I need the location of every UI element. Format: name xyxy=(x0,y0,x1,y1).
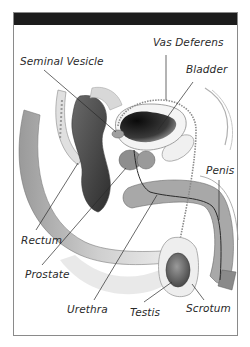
label-prostate: Prostate xyxy=(25,268,69,280)
testis-organ xyxy=(166,253,190,287)
leader-scrotum xyxy=(192,284,204,300)
label-rectum: Rectum xyxy=(21,234,62,246)
label-bladder: Bladder xyxy=(186,63,227,75)
label-seminal-vesicle: Seminal Vesicle xyxy=(20,55,104,67)
label-vas-deferens: Vas Deferens xyxy=(153,36,224,48)
label-urethra: Urethra xyxy=(67,303,108,315)
seminal-vesicle-organ xyxy=(112,130,124,138)
label-testis: Testis xyxy=(130,306,160,318)
label-penis: Penis xyxy=(206,164,234,176)
label-scrotum: Scrotum xyxy=(186,302,231,314)
